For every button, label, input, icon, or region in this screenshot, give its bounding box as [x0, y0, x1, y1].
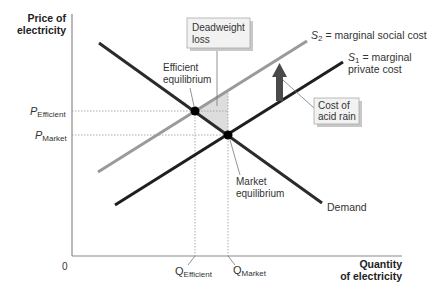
s2-marginal-social-cost-curve	[98, 41, 307, 172]
s2-label: S2 = marginal social cost	[311, 29, 427, 43]
cost-label-1: Cost of	[318, 100, 350, 111]
deadweight-loss-area	[195, 90, 228, 135]
x-axis-label-1: Quantity	[359, 258, 402, 270]
deadweight-label-1: Deadweight	[192, 22, 245, 33]
efficient-equilibrium-point	[191, 107, 200, 116]
market-eq-leader	[230, 140, 240, 175]
demand-label: Demand	[327, 201, 367, 213]
economics-diagram: Deadweight loss Cost of acid rain Price …	[0, 0, 439, 298]
market-eq-label-2: equilibrium	[236, 188, 284, 199]
efficient-eq-label-2: equilibrium	[163, 74, 211, 85]
efficient-eq-leader	[190, 88, 194, 106]
q-market-label: QMarket	[233, 264, 267, 278]
demand-curve	[99, 43, 322, 203]
p-efficient-label: PEfficient	[30, 105, 66, 119]
y-axis-label-1: Price of	[27, 12, 66, 24]
p-market-label: PMarket	[35, 129, 68, 143]
x-axis-label-2: of electricity	[340, 270, 402, 282]
deadweight-label-2: loss	[192, 34, 210, 45]
s1-label-2: private cost	[348, 63, 402, 75]
q-efficient-leader	[188, 256, 195, 265]
market-eq-label-1: Market	[236, 176, 267, 187]
cost-label-2: acid rain	[318, 111, 356, 122]
market-equilibrium-point	[224, 131, 233, 140]
q-efficient-label: QEfficient	[175, 265, 213, 279]
y-axis-label-2: electricity	[17, 24, 66, 36]
origin-label: 0	[62, 261, 68, 272]
efficient-eq-label-1: Efficient	[163, 62, 199, 73]
